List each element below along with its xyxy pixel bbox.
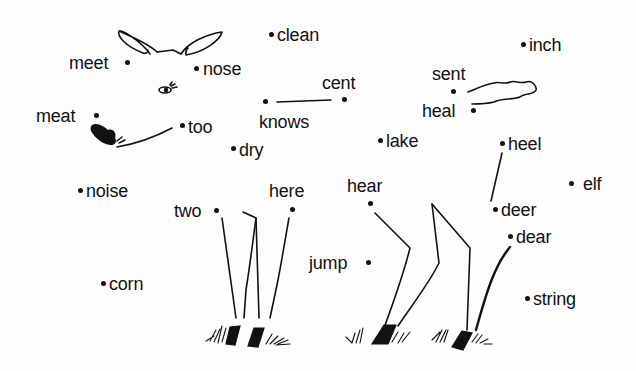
- dot-corn: [101, 281, 106, 286]
- word-label-knows: knows: [259, 112, 309, 132]
- word-label-deer: deer: [501, 200, 536, 220]
- word-label-heal: heal: [422, 101, 455, 121]
- segment-heel-deer: [491, 153, 502, 201]
- hoof-icon: [226, 326, 240, 345]
- dot-two: [214, 208, 219, 213]
- dot-sent: [451, 89, 456, 94]
- word-label-noise: noise: [86, 181, 128, 201]
- nose-blob-icon: [91, 124, 116, 145]
- dot-to-dot-worksheet: cleanmeetnosecentknowsmeattoodryinchsent…: [0, 0, 636, 371]
- word-label-hear: hear: [347, 176, 382, 196]
- hind-leg-left: [375, 213, 410, 328]
- word-label-clean: clean: [277, 25, 319, 45]
- word-label-string: string: [533, 289, 576, 309]
- dot-cent: [342, 97, 347, 102]
- word-label-lake: lake: [386, 131, 418, 151]
- segment-knows-cent: [277, 100, 331, 102]
- word-label-sent: sent: [432, 64, 465, 84]
- dot-dear: [508, 234, 513, 239]
- word-label-jump: jump: [309, 253, 347, 273]
- word-label-corn: corn: [109, 274, 143, 294]
- word-label-two: two: [174, 201, 201, 221]
- tail-icon: [468, 81, 536, 104]
- hoof-icon: [248, 328, 264, 347]
- word-label-elf: elf: [583, 174, 601, 194]
- dot-meet: [125, 60, 130, 65]
- left-ear-icon: [119, 31, 157, 54]
- dot-knows: [263, 99, 268, 104]
- word-label-cent: cent: [322, 73, 355, 93]
- dot-meat: [94, 113, 99, 118]
- dot-elf: [569, 181, 574, 186]
- jaw-line: [117, 128, 172, 147]
- dot-dry: [231, 146, 236, 151]
- word-label-inch: inch: [529, 35, 561, 55]
- word-label-meat: meat: [36, 106, 75, 126]
- dot-here: [290, 207, 295, 212]
- dot-clean: [269, 32, 274, 37]
- word-label-meet: meet: [69, 53, 108, 73]
- hoof-icon: [452, 331, 472, 350]
- dot-string: [525, 296, 530, 301]
- word-label-nose: nose: [203, 59, 241, 79]
- dot-deer: [493, 207, 498, 212]
- word-label-heel: heel: [508, 134, 541, 154]
- word-label-too: too: [188, 117, 212, 137]
- front-leg-right-outer: [270, 218, 289, 318]
- dot-heal: [471, 108, 476, 113]
- word-label-here: here: [269, 181, 304, 201]
- word-label-dear: dear: [516, 227, 551, 247]
- head-top-line: [157, 50, 181, 54]
- dot-lake: [378, 138, 383, 143]
- dot-heel: [500, 141, 505, 146]
- dot-hear: [368, 201, 373, 206]
- hind-leg-right-back: [476, 247, 510, 330]
- word-label-dry: dry: [239, 140, 263, 160]
- right-ear-icon: [181, 32, 222, 55]
- front-leg-left-inner: [243, 212, 256, 318]
- dot-jump: [366, 260, 371, 265]
- front-leg-right: [256, 218, 259, 318]
- hind-leg-left-back: [398, 204, 439, 326]
- front-leg-left: [222, 218, 236, 318]
- dot-noise: [78, 188, 83, 193]
- dot-nose: [194, 66, 199, 71]
- dot-inch: [521, 42, 526, 47]
- dot-too: [180, 123, 185, 128]
